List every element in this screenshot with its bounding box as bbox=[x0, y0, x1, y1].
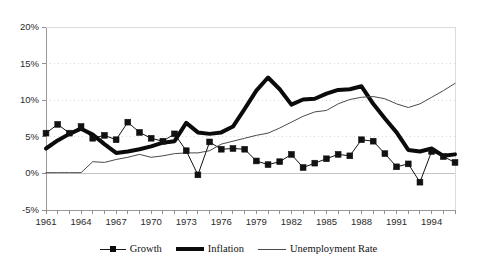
legend-label-growth: Growth bbox=[130, 244, 162, 255]
y-axis-tick-label: 10% bbox=[20, 94, 39, 105]
x-axis-tick-label: 1964 bbox=[61, 216, 101, 227]
growth-line-swatch-icon bbox=[100, 245, 126, 254]
chart-plot-area bbox=[0, 0, 477, 272]
chart-legend: Growth Inflation Unemployment Rate bbox=[0, 238, 477, 260]
y-axis-tick-label: 0% bbox=[25, 167, 39, 178]
legend-item-inflation[interactable]: Inflation bbox=[176, 244, 244, 255]
x-axis-tick-label: 1976 bbox=[201, 216, 241, 227]
x-axis-tick-label: 1961 bbox=[26, 216, 66, 227]
unemployment-line-swatch-icon bbox=[258, 249, 286, 250]
x-axis-tick-label: 1973 bbox=[166, 216, 206, 227]
x-axis-tick-label: 1985 bbox=[306, 216, 346, 227]
x-axis-tick-label: 1982 bbox=[271, 216, 311, 227]
y-axis-tick-label: 20% bbox=[20, 21, 39, 32]
legend-item-growth[interactable]: Growth bbox=[100, 244, 162, 255]
x-axis-tick-label: 1988 bbox=[342, 216, 382, 227]
x-axis-tick-label: 1994 bbox=[412, 216, 452, 227]
y-axis-tick-label: 15% bbox=[20, 58, 39, 69]
x-axis-tick-label: 1979 bbox=[236, 216, 276, 227]
y-axis-tick-label: 5% bbox=[25, 131, 39, 142]
axis-ticks bbox=[42, 27, 455, 214]
x-axis-tick-label: 1967 bbox=[96, 216, 136, 227]
axis-frame bbox=[46, 27, 455, 210]
inflation-line-swatch-icon bbox=[176, 247, 204, 251]
x-axis-tick-label: 1991 bbox=[377, 216, 417, 227]
legend-label-unemployment-rate: Unemployment Rate bbox=[290, 244, 377, 255]
x-axis-tick-label: 1970 bbox=[131, 216, 171, 227]
chart-container: 20%15%10%5%0%-5% 19611964196719701973197… bbox=[0, 0, 477, 272]
legend-label-inflation: Inflation bbox=[208, 244, 244, 255]
y-axis-tick-label: -5% bbox=[22, 204, 39, 215]
legend-item-unemployment-rate[interactable]: Unemployment Rate bbox=[258, 244, 377, 255]
